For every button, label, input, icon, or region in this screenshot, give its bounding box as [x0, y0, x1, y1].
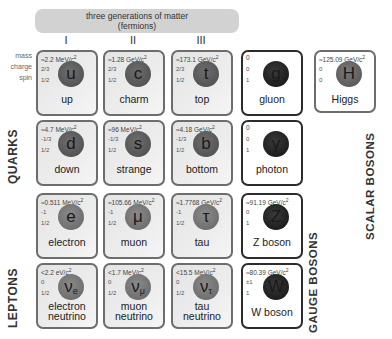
spin-value: 1/2	[176, 220, 184, 226]
spin-row-label: spin	[2, 74, 32, 81]
particle-card-up[interactable]: ≈2.2 MeV/c2 2/3 1/2 u up	[36, 50, 98, 116]
banner-subtitle: (fermions)	[35, 21, 239, 31]
particle-name: tau	[173, 237, 231, 247]
particle-card-electron-neutrino[interactable]: <2.2 eV/c2 0 1/2 νe electronneutrino	[36, 263, 98, 329]
banner-title: three generations of matter	[35, 11, 239, 21]
particle-card-muon[interactable]: ≈105.66 MeV/c2 -1 1/2 μ muon	[103, 193, 165, 259]
charge-value: 0	[108, 279, 111, 285]
charge-value: -1/3	[108, 136, 118, 142]
tau-symbol: τ	[193, 204, 219, 230]
leptons-label: LEPTONS	[6, 268, 20, 328]
particle-name: W boson	[243, 307, 301, 317]
muon-neutrino-symbol: νμ	[125, 274, 151, 300]
particle-name: photon	[243, 164, 301, 174]
spin-value: 1/2	[41, 220, 49, 226]
charge-row-label: charge	[2, 63, 32, 70]
particle-name: strange	[105, 164, 163, 174]
charge-value: 0	[246, 136, 249, 142]
spin-value: 1/2	[108, 290, 116, 296]
particle-name: Z boson	[243, 237, 301, 247]
spin-value: 1/2	[176, 77, 184, 83]
spin-value: 1/2	[176, 290, 184, 296]
charge-value: 0	[319, 66, 322, 72]
spin-value: 1/2	[108, 77, 116, 83]
particle-card-muon-neutrino[interactable]: <1.7 MeV/c2 0 1/2 νμ muonneutrino	[103, 263, 165, 329]
particle-card-photon[interactable]: 0 0 1 γ photon	[241, 120, 303, 186]
up-quark-symbol: u	[58, 61, 84, 87]
gauge-bosons-label: GAUGE BOSONS	[307, 232, 319, 333]
charge-value: 0	[246, 209, 249, 215]
particle-card-bottom[interactable]: ≈4.18 GeV/c2 -1/3 1/2 b bottom	[171, 120, 233, 186]
particle-name: top	[173, 94, 231, 104]
gluon-symbol: g	[263, 61, 289, 87]
spin-value: 1/2	[41, 290, 49, 296]
mass-row-label: mass	[2, 52, 32, 59]
fermions-banner: three generations of matter (fermions)	[35, 9, 239, 33]
bottom-quark-symbol: b	[193, 131, 219, 157]
spin-value: 1	[246, 147, 249, 153]
z-boson-symbol: Z	[263, 204, 289, 230]
charge-value: -1	[176, 209, 181, 215]
particle-card-charm[interactable]: ≈1.28 GeV/c2 2/3 1/2 c charm	[103, 50, 165, 116]
generation-3-label: III	[191, 34, 211, 46]
muon-symbol: μ	[125, 204, 151, 230]
particle-card-tau-neutrino[interactable]: <15.5 MeV/c2 0 1/2 ντ tauneutrino	[171, 263, 233, 329]
charge-value: 2/3	[41, 66, 49, 72]
charge-value: 0	[41, 279, 44, 285]
particle-name: charm	[105, 94, 163, 104]
particle-name: electronneutrino	[38, 301, 96, 321]
particle-card-tau[interactable]: ≈1.7768 GeV/c2 -1 1/2 τ tau	[171, 193, 233, 259]
spin-value: 1/2	[176, 147, 184, 153]
particle-name: Higgs	[316, 94, 374, 104]
down-quark-symbol: d	[58, 131, 84, 157]
charge-value: 2/3	[108, 66, 116, 72]
particle-card-electron[interactable]: ≈0.511 MeV/c2 -1 1/2 e electron	[36, 193, 98, 259]
spin-value: 1	[246, 220, 249, 226]
photon-symbol: γ	[263, 131, 289, 157]
quarks-label: QUARKS	[6, 129, 20, 184]
spin-value: 1/2	[108, 220, 116, 226]
generation-1-label: I	[56, 34, 76, 46]
charge-value: -1	[41, 209, 46, 215]
spin-value: 1/2	[108, 147, 116, 153]
spin-value: 1	[246, 290, 249, 296]
particle-card-top[interactable]: ≈173.1 GeV/c2 2/3 1/2 t top	[171, 50, 233, 116]
particle-name: tauneutrino	[173, 301, 231, 321]
electron-neutrino-symbol: νe	[58, 274, 84, 300]
particle-card-higgs[interactable]: ≈125.09 GeV/c2 0 0 H Higgs	[314, 50, 376, 113]
charge-value: 0	[246, 66, 249, 72]
charge-value: -1	[108, 209, 113, 215]
charge-value: ±1	[246, 279, 253, 285]
charm-quark-symbol: c	[125, 61, 151, 87]
charge-value: -1/3	[41, 136, 51, 142]
electron-symbol: e	[58, 204, 84, 230]
particle-name: muonneutrino	[105, 301, 163, 321]
scalar-bosons-label: SCALAR BOSONS	[364, 133, 376, 240]
w-boson-symbol: W	[263, 274, 289, 300]
particle-name: bottom	[173, 164, 231, 174]
mass-value: 0	[246, 124, 250, 131]
particle-card-z-boson[interactable]: ≈91.19 GeV/c2 0 1 Z Z boson	[241, 193, 303, 259]
charge-value: -1/3	[176, 136, 186, 142]
charge-value: 0	[176, 279, 179, 285]
top-quark-symbol: t	[193, 61, 219, 87]
spin-value: 0	[319, 77, 322, 83]
particle-name: down	[38, 164, 96, 174]
higgs-symbol: H	[336, 61, 362, 87]
generation-2-label: II	[123, 34, 143, 46]
mass-value: 0	[246, 54, 250, 61]
charge-value: 2/3	[176, 66, 184, 72]
spin-value: 1/2	[41, 77, 49, 83]
particle-card-down[interactable]: ≈4.7 MeV/c2 -1/3 1/2 d down	[36, 120, 98, 186]
strange-quark-symbol: s	[125, 131, 151, 157]
spin-value: 1	[246, 77, 249, 83]
particle-name: gluon	[243, 94, 301, 104]
particle-name: electron	[38, 237, 96, 247]
particle-card-strange[interactable]: ≈96 MeV/c2 -1/3 1/2 s strange	[103, 120, 165, 186]
particle-card-w-boson[interactable]: ≈80.39 GeV/c2 ±1 1 W W boson	[241, 263, 303, 329]
spin-value: 1/2	[41, 147, 49, 153]
particle-card-gluon[interactable]: 0 0 1 g gluon	[241, 50, 303, 116]
particle-name: up	[38, 94, 96, 104]
tau-neutrino-symbol: ντ	[193, 274, 219, 300]
particle-name: muon	[105, 237, 163, 247]
